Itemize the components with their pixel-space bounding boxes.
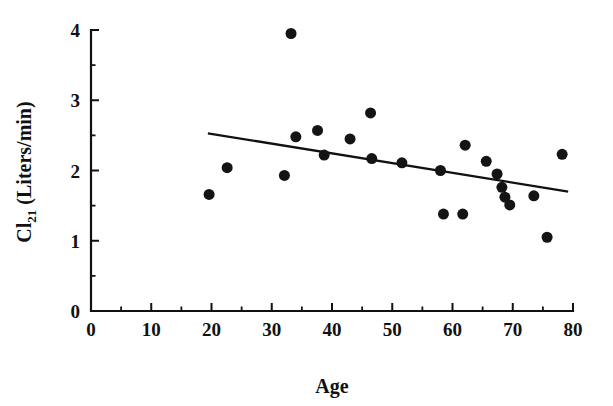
data-point xyxy=(528,190,539,201)
x-tick-label: 80 xyxy=(564,319,583,340)
x-tick-label: 40 xyxy=(323,319,342,340)
data-point xyxy=(457,209,468,220)
y-axis-tick-labels: 01234 xyxy=(71,20,81,322)
y-tick-label: 1 xyxy=(71,231,81,252)
data-point xyxy=(396,157,407,168)
data-point xyxy=(366,153,377,164)
y-tick-label: 3 xyxy=(71,90,81,111)
y-axis-title-base: Cl xyxy=(13,222,35,242)
data-point xyxy=(542,232,553,243)
scatter-plot-figure: 01020304050607080 01234 Age Cl21 (Liters… xyxy=(0,0,613,406)
x-tick-label: 70 xyxy=(503,319,522,340)
data-point xyxy=(279,170,290,181)
x-axis-tick-labels: 01020304050607080 xyxy=(86,319,582,340)
y-axis-title: Cl21 (Liters/min) xyxy=(13,101,39,242)
data-point xyxy=(460,140,471,151)
data-point xyxy=(492,169,503,180)
x-tick-label: 60 xyxy=(443,319,462,340)
x-tick-label: 10 xyxy=(142,319,161,340)
x-tick-label: 20 xyxy=(202,319,221,340)
chart-canvas: 01020304050607080 01234 Age Cl21 (Liters… xyxy=(0,0,613,406)
data-point xyxy=(435,165,446,176)
y-axis-title-unit: (Liters/min) xyxy=(13,101,36,209)
data-point xyxy=(438,209,449,220)
data-point xyxy=(365,107,376,118)
data-point xyxy=(222,162,233,173)
y-axis-title-subscript: 21 xyxy=(24,210,39,223)
data-point xyxy=(496,182,507,193)
regression-line-segment xyxy=(208,133,568,191)
data-point xyxy=(290,131,301,142)
data-point xyxy=(286,28,297,39)
y-tick-label: 0 xyxy=(71,301,81,322)
y-axis-title-text: Cl21 (Liters/min) xyxy=(13,101,39,242)
data-point xyxy=(319,150,330,161)
data-point xyxy=(345,133,356,144)
data-point xyxy=(481,156,492,167)
regression-line xyxy=(208,133,568,191)
data-point xyxy=(557,149,568,160)
y-tick-label: 4 xyxy=(71,20,81,41)
x-tick-label: 0 xyxy=(86,319,96,340)
data-point xyxy=(204,189,215,200)
x-tick-label: 50 xyxy=(383,319,402,340)
data-point xyxy=(312,125,323,136)
data-point xyxy=(504,199,515,210)
x-tick-label: 30 xyxy=(262,319,281,340)
data-points xyxy=(204,28,568,243)
x-axis-title: Age xyxy=(315,375,348,398)
y-tick-label: 2 xyxy=(71,161,81,182)
